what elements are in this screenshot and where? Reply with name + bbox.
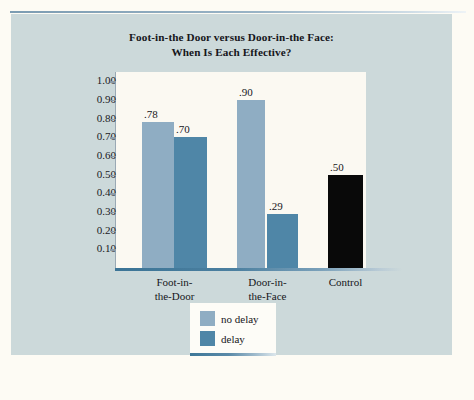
y-axis-tick-mark bbox=[110, 100, 116, 101]
legend-label: no delay bbox=[221, 312, 259, 326]
legend-swatch bbox=[200, 311, 215, 326]
x-axis-baseline bbox=[115, 268, 402, 271]
legend-label: delay bbox=[221, 332, 245, 346]
y-axis-tick-group: 1.000.900.800.700.600.500.400.300.200.10 bbox=[59, 14, 116, 355]
legend-box: no delaydelay bbox=[190, 303, 276, 353]
bar-value-label: .70 bbox=[176, 124, 190, 135]
bar bbox=[142, 122, 174, 268]
x-axis-category-label: Foot-in-the-Door bbox=[125, 276, 225, 303]
x-axis-category-label-line: the-Face bbox=[218, 290, 318, 304]
y-axis-tick-mark bbox=[110, 156, 116, 157]
top-decorative-rule bbox=[10, 11, 466, 13]
y-axis-tick-mark bbox=[110, 249, 116, 250]
legend-swatch bbox=[200, 331, 215, 346]
figure-panel: Foot-in-the Door versus Door-in-the Face… bbox=[11, 14, 452, 355]
bar bbox=[174, 137, 207, 268]
bar bbox=[267, 214, 298, 268]
bar bbox=[328, 175, 363, 268]
bar bbox=[237, 100, 265, 268]
y-axis-tick-mark bbox=[110, 81, 116, 82]
bar-value-label: .90 bbox=[239, 87, 253, 98]
bar-value-label: .78 bbox=[144, 109, 158, 120]
x-axis-category-label-line: Control bbox=[296, 276, 396, 290]
x-axis-category-label-line: Foot-in- bbox=[125, 276, 225, 290]
x-axis-category-label: Control bbox=[296, 276, 396, 290]
x-axis-category-label-line: the-Door bbox=[125, 290, 225, 304]
y-axis-tick-mark bbox=[110, 175, 116, 176]
bar-value-label: .29 bbox=[269, 201, 283, 212]
y-axis-tick-mark bbox=[110, 231, 116, 232]
y-axis-tick-mark bbox=[110, 212, 116, 213]
bottom-decorative-bar bbox=[11, 377, 107, 382]
y-axis-tick-mark bbox=[110, 193, 116, 194]
y-axis-tick-mark bbox=[110, 137, 116, 138]
bar-value-label: .50 bbox=[330, 162, 344, 173]
y-axis-tick-mark bbox=[110, 119, 116, 120]
legend-underline bbox=[190, 353, 276, 356]
